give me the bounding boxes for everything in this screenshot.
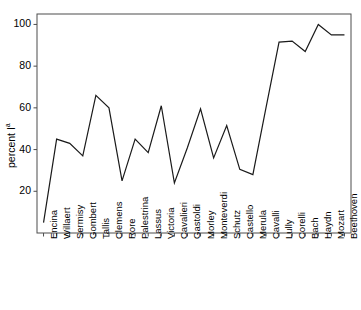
y-tick-label: 80 bbox=[3, 59, 31, 71]
x-tick-label: Beethoven bbox=[348, 194, 359, 239]
x-tick-label: Haydn bbox=[322, 212, 333, 239]
x-tick-label: Cavalli bbox=[270, 210, 281, 239]
y-axis-ticks bbox=[34, 24, 38, 191]
plot-frame bbox=[37, 14, 351, 233]
x-tick-label: Victoria bbox=[165, 207, 176, 239]
x-tick-label: Mozart bbox=[335, 210, 346, 239]
y-tick-label: 60 bbox=[3, 101, 31, 113]
y-tick-label: 20 bbox=[3, 184, 31, 196]
x-tick-label: Encina bbox=[48, 210, 59, 239]
x-tick-label: Corelli bbox=[296, 212, 307, 239]
x-tick-label: Sermisy bbox=[74, 205, 85, 239]
line-chart-plot bbox=[0, 0, 361, 310]
y-axis-title-superscript: a bbox=[4, 123, 11, 127]
x-tick-label: Schutz bbox=[231, 210, 242, 239]
y-axis-title-text: percent I bbox=[5, 127, 17, 168]
y-tick-label: 100 bbox=[3, 17, 31, 29]
y-axis-title: percent Ia bbox=[4, 123, 17, 168]
x-tick-label: Lully bbox=[283, 219, 294, 239]
chart-figure: 20406080100 EncinaWillaertSermisyGombert… bbox=[0, 0, 361, 310]
x-tick-label: Willaert bbox=[61, 207, 72, 239]
x-tick-label: Cavalieri bbox=[178, 202, 189, 239]
x-tick-label: Rore bbox=[126, 218, 137, 239]
x-tick-label: Clemens bbox=[113, 202, 124, 240]
x-tick-label: Merula bbox=[257, 210, 268, 239]
x-tick-label: Morley bbox=[205, 210, 216, 239]
x-tick-label: Monteverdi bbox=[218, 192, 229, 239]
x-tick-label: Lassus bbox=[152, 209, 163, 239]
x-tick-label: Bach bbox=[309, 217, 320, 239]
x-tick-label: Tallis bbox=[100, 218, 111, 239]
x-tick-label: Palestrina bbox=[139, 197, 150, 239]
x-tick-label: Castello bbox=[244, 205, 255, 239]
x-tick-label: Gombert bbox=[87, 202, 98, 239]
x-tick-label: Gastoldi bbox=[191, 204, 202, 239]
